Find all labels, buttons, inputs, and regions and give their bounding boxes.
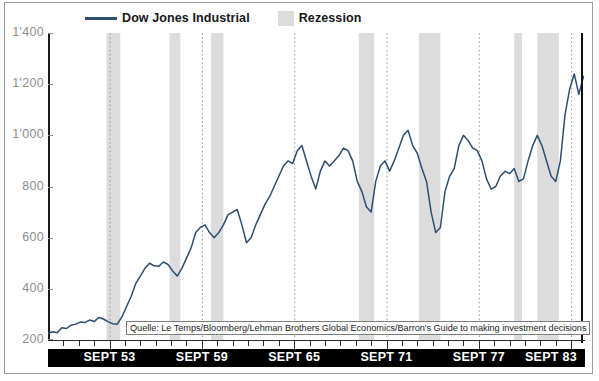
chart-legend: Dow Jones Industrial Rezession xyxy=(85,8,361,28)
plot-area xyxy=(48,33,585,340)
x-tick-minor xyxy=(233,341,234,346)
x-axis-label-band: SEPT 53SEPT 59SEPT 65SEPT 71SEPT 77SEPT … xyxy=(48,349,585,367)
x-tick-minor xyxy=(463,341,464,346)
x-tick-minor xyxy=(125,341,126,346)
y-tick-mark xyxy=(48,238,53,239)
x-tick-minor xyxy=(263,341,264,346)
legend-label-series: Dow Jones Industrial xyxy=(122,11,250,25)
legend-line-swatch xyxy=(85,17,117,20)
x-tick-minor xyxy=(186,341,187,346)
chart-figure: Dow Jones Industrial Rezession 200400600… xyxy=(0,0,599,381)
recession-band xyxy=(106,33,120,340)
x-tick-minor xyxy=(494,341,495,346)
x-tick-major xyxy=(110,341,111,349)
y-tick-label: 200 xyxy=(22,332,44,346)
x-tick-minor xyxy=(402,341,403,346)
y-tick-label: 400 xyxy=(22,281,44,295)
recession-band xyxy=(170,33,181,340)
y-tick-mark xyxy=(48,289,53,290)
recession-band xyxy=(419,33,441,340)
x-axis-label: SEPT 77 xyxy=(453,350,505,364)
x-tick-minor xyxy=(279,341,280,346)
x-tick-minor xyxy=(79,341,80,346)
x-tick-major xyxy=(294,341,295,349)
x-axis-label: SEPT 71 xyxy=(360,350,412,364)
x-tick-minor xyxy=(510,341,511,346)
recession-band xyxy=(211,33,223,340)
x-tick-minor xyxy=(540,341,541,346)
x-tick-minor xyxy=(448,341,449,346)
x-tick-minor xyxy=(556,341,557,346)
x-tick-minor xyxy=(525,341,526,346)
x-tick-minor xyxy=(140,341,141,346)
x-tick-minor xyxy=(248,341,249,346)
plot-canvas xyxy=(48,33,585,340)
x-tick-minor xyxy=(94,341,95,346)
chart-svg xyxy=(48,33,585,340)
y-tick-label: 800 xyxy=(22,179,44,193)
x-tick-minor xyxy=(310,341,311,346)
x-tick-major xyxy=(202,341,203,349)
y-tick-label: 1'400 xyxy=(12,25,44,39)
x-tick-major xyxy=(571,341,572,349)
x-tick-minor xyxy=(217,341,218,346)
x-tick-minor xyxy=(371,341,372,346)
x-tick-minor xyxy=(171,341,172,346)
x-axis-label: SEPT 65 xyxy=(268,350,320,364)
y-tick-mark xyxy=(48,187,53,188)
legend-band-swatch xyxy=(278,11,294,26)
x-tick-minor xyxy=(417,341,418,346)
x-tick-minor xyxy=(433,341,434,346)
legend-entry-series: Dow Jones Industrial xyxy=(85,11,250,25)
x-axis-label: SEPT 59 xyxy=(176,350,228,364)
legend-label-recession: Rezession xyxy=(299,11,362,25)
x-tick-minor xyxy=(156,341,157,346)
y-tick-mark xyxy=(48,339,53,340)
x-tick-major xyxy=(479,341,480,349)
x-axis-label: SEPT 53 xyxy=(83,350,135,364)
recession-band xyxy=(537,33,559,340)
x-axis-label: SEPT 83 xyxy=(525,350,577,364)
y-tick-label: 1'000 xyxy=(12,127,44,141)
plot-right-border xyxy=(581,33,583,343)
y-tick-mark xyxy=(48,135,53,136)
x-tick-minor xyxy=(63,341,64,346)
x-tick-minor xyxy=(340,341,341,346)
recession-band xyxy=(359,33,374,340)
legend-entry-recession: Rezession xyxy=(278,11,362,26)
recession-band xyxy=(514,33,522,340)
y-tick-label: 1'200 xyxy=(12,76,44,90)
y-tick-label: 600 xyxy=(22,230,44,244)
x-axis-tick-row xyxy=(48,340,585,349)
x-tick-minor xyxy=(325,341,326,346)
series-line-dow-jones-industrial xyxy=(48,74,583,334)
x-tick-minor xyxy=(356,341,357,346)
source-note: Quelle: Le Temps/Bloomberg/Lehman Brothe… xyxy=(126,321,590,335)
clipped-top-text xyxy=(30,0,570,4)
y-axis-labels: 2004006008001'0001'2001'400 xyxy=(0,0,44,381)
y-tick-mark xyxy=(48,33,53,34)
y-tick-mark xyxy=(48,84,53,85)
x-tick-major xyxy=(387,341,388,349)
